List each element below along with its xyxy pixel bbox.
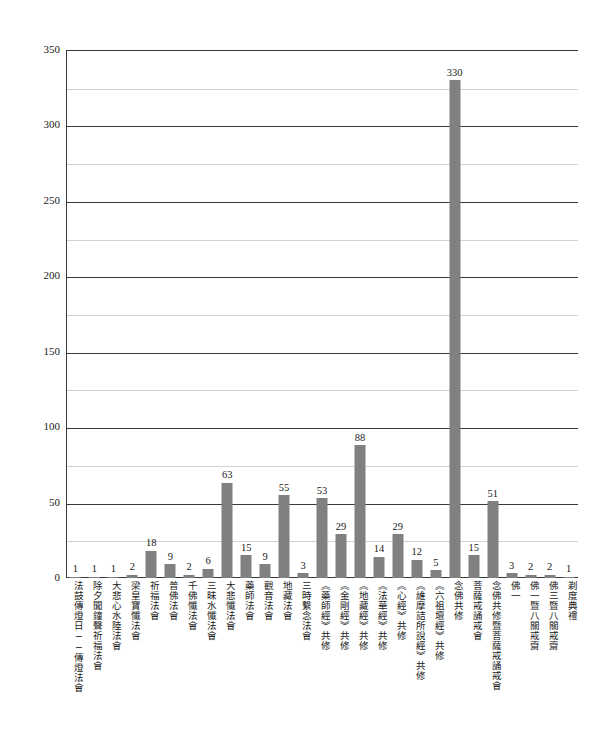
gridline-major xyxy=(67,202,578,203)
x-tick-label: 藥師法會 xyxy=(240,581,254,621)
x-tick-label: 《地藏經》共修 xyxy=(354,581,368,651)
bar-chart: 050100150200250300350 111218926631595535… xyxy=(0,0,605,729)
x-tick-label: 祈福法會 xyxy=(145,581,159,621)
x-tick-label: 佛一 xyxy=(506,581,520,601)
gridline-minor xyxy=(67,240,578,241)
x-tick-label: 剃度典禮 xyxy=(563,581,577,621)
x-axis-tick-labels: 法鼓傳燈日──傳燈法會除夕聞鐘聲祈福法會大悲心水陸法會梁皇寶懺法會祈福法會普佛法… xyxy=(66,581,578,721)
x-tick-label: 除夕聞鐘聲祈福法會 xyxy=(88,581,102,671)
y-tick-label: 100 xyxy=(4,421,60,432)
x-tick-label: 念佛共修暨菩薩戒誦戒會 xyxy=(487,581,501,691)
x-tick-label: 三時繫念法會 xyxy=(297,581,311,641)
x-tick-label: 地藏法會 xyxy=(278,581,292,621)
x-tick-label: 法鼓傳燈日──傳燈法會 xyxy=(69,581,83,693)
x-tick-label: 梁皇寶懺法會 xyxy=(126,581,140,641)
y-tick-label: 250 xyxy=(4,195,60,206)
gridline-minor xyxy=(67,315,578,316)
gridline-major xyxy=(67,428,578,429)
x-tick-label: 佛三暨八關戒齋 xyxy=(544,581,558,651)
gridline-minor xyxy=(67,164,578,165)
x-tick-label: 觀音法會 xyxy=(259,581,273,621)
gridline-major xyxy=(67,277,578,278)
x-tick-label: 《六祖壇經》共修 xyxy=(430,581,444,661)
y-tick-label: 200 xyxy=(4,270,60,281)
gridline-major xyxy=(67,126,578,127)
gridline-minor xyxy=(67,541,578,542)
x-tick-label: 普佛法會 xyxy=(164,581,178,621)
x-tick-label: 三昧水懺法會 xyxy=(202,581,216,641)
gridline-minor xyxy=(67,390,578,391)
x-tick-label: 《藥師經》共修 xyxy=(316,581,330,651)
y-tick-label: 350 xyxy=(4,44,60,55)
y-tick-label: 300 xyxy=(4,119,60,130)
x-tick-label: 《金剛經》共修 xyxy=(335,581,349,651)
x-tick-label: 《法華經》共修 xyxy=(373,581,387,651)
x-tick-label: 大悲心水陸法會 xyxy=(107,581,121,651)
x-tick-label: 千佛懺法會 xyxy=(183,581,197,631)
x-tick-label: 佛一暨八關戒齋 xyxy=(525,581,539,651)
y-tick-label: 150 xyxy=(4,346,60,357)
gridline-minor xyxy=(67,466,578,467)
y-tick-label: 0 xyxy=(4,572,60,583)
x-tick-label: 大悲懺法會 xyxy=(221,581,235,631)
x-tick-label: 《心經》共修 xyxy=(392,581,406,641)
x-tick-label: 菩薩戒誦戒會 xyxy=(468,581,482,641)
gridline-minor xyxy=(67,89,578,90)
gridline-major xyxy=(67,504,578,505)
gridline-major xyxy=(67,353,578,354)
plot-area xyxy=(66,50,578,578)
y-tick-label: 50 xyxy=(4,497,60,508)
x-tick-label: 《維摩詰所說經》共修 xyxy=(411,581,425,681)
x-tick-label: 念佛共修 xyxy=(449,581,463,621)
